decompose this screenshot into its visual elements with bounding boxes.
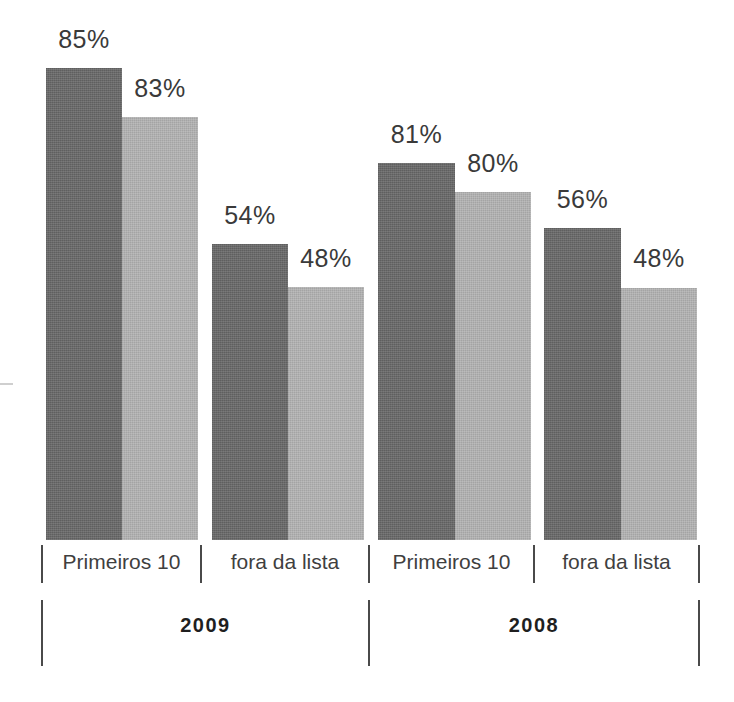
value-label-2009-primeiros10-dark: 85% [45,27,123,52]
category-label-2009-primeiros10: Primeiros 10 [43,548,200,575]
bar-2009-foradalista-dark [212,244,288,540]
category-label-2008-primeiros10: Primeiros 10 [370,548,533,575]
bar-2008-primeiros10-light [455,192,531,540]
year-label-2009: 2009 [43,612,368,638]
bar-2008-foradalista-light [621,288,697,540]
bar-2008-primeiros10-dark [378,163,455,540]
bar-chart: 85% 83% 54% 48% 81% 80% 56% 48% Primeiro… [0,0,734,702]
value-label-2008-primeiros10-light: 80% [454,151,532,176]
value-label-2008-foradalista-light: 48% [620,246,698,271]
value-label-2009-foradalista-dark: 54% [211,203,289,228]
value-label-2008-foradalista-dark: 56% [543,187,622,212]
value-label-2009-foradalista-light: 48% [287,246,365,271]
scan-artifact-line [0,383,13,385]
category-label-2008-foradalista: fora da lista [535,548,698,575]
bar-2008-foradalista-dark [544,228,621,540]
value-label-2009-primeiros10-light: 83% [121,76,199,101]
bar-2009-primeiros10-dark [46,68,122,540]
bar-2009-primeiros10-light [122,117,198,540]
year-label-2008: 2008 [370,612,698,638]
axis-tick-inner-5 [698,545,700,583]
bar-2009-foradalista-light [288,287,364,540]
axis-tick-outer-3 [698,600,700,666]
category-label-2009-foradalista: fora da lista [202,548,368,575]
value-label-2008-primeiros10-dark: 81% [377,122,456,147]
